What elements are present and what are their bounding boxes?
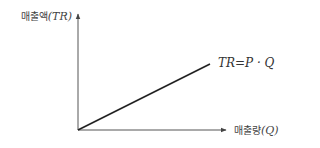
x-axis-label-korean: 매출량 <box>234 125 261 136</box>
curve-label: TR=P · Q <box>218 57 274 69</box>
tr-line <box>78 64 210 130</box>
y-axis-label-korean: 매출액 <box>21 11 48 22</box>
y-axis-label: 매출액(TR) <box>21 11 72 22</box>
x-axis-label-symbol: (Q) <box>261 124 279 137</box>
x-axis-label: 매출량(Q) <box>234 125 279 136</box>
y-axis-label-symbol: (TR) <box>48 10 72 23</box>
